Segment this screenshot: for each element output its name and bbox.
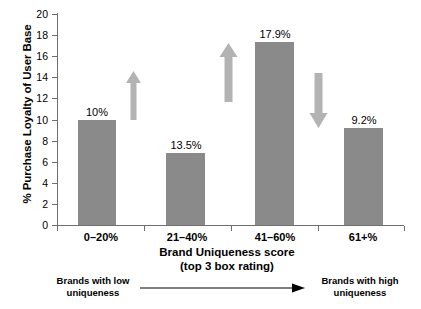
bar-chart: % Purchase Loyalty of User Base 20 18 16…: [0, 0, 421, 309]
bar-label-21-40: 13.5%: [151, 139, 221, 151]
y-tick-label: 10: [18, 115, 48, 125]
x-axis-title-sub: (top 3 box rating): [57, 260, 397, 274]
annotation-high-line1: Brands with high: [305, 275, 415, 287]
bar-label-0-20: 10%: [62, 106, 132, 118]
y-tick-mark: [52, 56, 57, 57]
trend-up-arrow-2: [219, 43, 238, 102]
x-category-label-41-60: 41–60%: [230, 231, 320, 243]
y-tick-mark: [52, 183, 57, 184]
x-axis-title-main: Brand Uniqueness score: [57, 246, 397, 260]
y-tick-label: 18: [18, 30, 48, 40]
y-tick-mark: [52, 120, 57, 121]
y-tick-mark: [52, 162, 57, 163]
x-category-label-21-40: 21–40%: [142, 231, 232, 243]
annotation-low-uniqueness: Brands with low uniqueness: [38, 275, 148, 298]
y-axis-line: [57, 13, 58, 226]
annotation-low-line2: uniqueness: [38, 287, 148, 299]
y-tick-label: 4: [18, 178, 48, 188]
y-tick-label: 0: [18, 220, 48, 230]
y-tick-mark: [52, 35, 57, 36]
annotation-high-uniqueness: Brands with high uniqueness: [305, 275, 415, 298]
y-tick-mark: [52, 77, 57, 78]
y-tick-label: 12: [18, 93, 48, 103]
x-category-label-61-plus: 61+%: [318, 231, 408, 243]
y-tick-label: 14: [18, 72, 48, 82]
y-tick-label: 8: [18, 136, 48, 146]
annotation-high-line2: uniqueness: [305, 287, 415, 299]
bar-label-61-plus: 9.2%: [329, 114, 399, 126]
x-category-label-0-20: 0–20%: [56, 231, 146, 243]
y-tick-mark: [52, 141, 57, 142]
y-tick-label: 16: [18, 51, 48, 61]
y-tick-mark: [52, 14, 57, 15]
bar-41-60: [255, 42, 294, 225]
bar-61-plus: [344, 128, 383, 225]
y-tick-label: 6: [18, 157, 48, 167]
x-axis-title: Brand Uniqueness score (top 3 box rating…: [57, 246, 397, 273]
y-tick-mark: [52, 204, 57, 205]
y-tick-label: 2: [18, 199, 48, 209]
y-tick-mark: [52, 98, 57, 99]
bar-label-41-60: 17.9%: [240, 28, 310, 40]
trend-down-arrow-1: [309, 73, 328, 128]
bar-0-20: [78, 120, 116, 225]
y-tick-label: 20: [18, 9, 48, 19]
uniqueness-range-arrow: [140, 282, 305, 294]
trend-up-arrow-1: [125, 71, 142, 120]
annotation-low-line1: Brands with low: [38, 275, 148, 287]
bar-21-40: [166, 153, 205, 225]
